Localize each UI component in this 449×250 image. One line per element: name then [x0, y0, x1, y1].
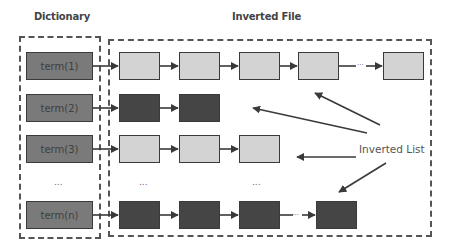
annotation-arrow — [315, 93, 380, 125]
annotation-arrow — [339, 163, 386, 192]
arrows-layer — [0, 0, 449, 250]
annotation-arrow — [253, 108, 367, 133]
